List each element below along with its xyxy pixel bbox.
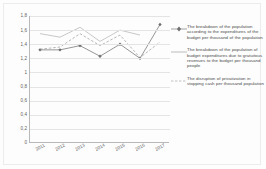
data-point-marker [38,48,41,51]
data-point-marker [58,48,61,51]
chart-legend: The breakdown of the population accordin… [171,24,264,94]
legend-label-0: The breakdown of the population accordin… [187,24,264,40]
legend-label-1: The breakdown of the population of budge… [187,47,264,69]
y-tick-label: 1 [3,70,27,75]
gridline [30,101,170,102]
gridline [30,58,170,59]
gridline [30,16,170,17]
y-tick-label: 0,2 [3,126,27,131]
legend-label-2: The disruption of privatization in stopp… [187,76,264,87]
gridline [30,129,170,130]
series-line-2 [40,34,160,58]
plot-area [29,16,169,143]
y-axis: 00,20,40,60,811,21,41,61,8 [0,16,27,143]
y-tick-label: 0,4 [3,112,27,117]
series-lines [30,16,170,143]
data-point-marker [158,23,161,26]
legend-item-2[interactable]: The disruption of privatization in stopp… [171,76,264,87]
y-tick-label: 0,8 [3,84,27,89]
gridline [30,30,170,31]
gridline [30,44,170,45]
legend-item-0[interactable]: The breakdown of the population accordin… [171,24,264,40]
y-tick-label: 1,4 [3,42,27,47]
legend-marker-diamond-icon [171,25,187,33]
legend-item-1[interactable]: The breakdown of the population of budge… [171,47,264,69]
y-tick-label: 1,6 [3,28,27,33]
gridline [30,87,170,88]
legend-marker-dashed-icon [171,77,187,85]
legend-marker-line-icon [171,48,187,56]
y-tick-label: 0,6 [3,98,27,103]
y-tick-label: 0 [3,140,27,145]
y-tick-label: 1,2 [3,56,27,61]
chart-container: 00,20,40,60,811,21,41,61,8 2011201220132… [0,0,266,169]
gridline [30,115,170,116]
gridline [30,72,170,73]
y-tick-label: 1,8 [3,13,27,18]
x-axis: 2011201220132014201520162017 [29,145,174,165]
